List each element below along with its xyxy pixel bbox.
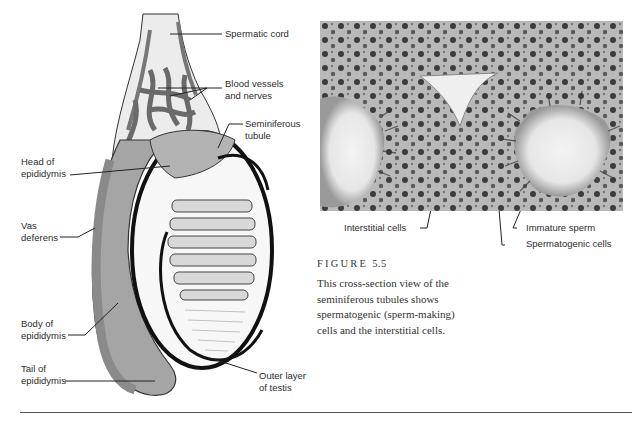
label-seminiferous-line2: tubule bbox=[245, 130, 271, 142]
label-seminiferous-line1: Seminiferous bbox=[245, 118, 300, 130]
figure-caption: This cross-section view of the seminifer… bbox=[317, 276, 457, 338]
figure-number: 5.5 bbox=[372, 258, 387, 269]
label-outer-line2: of testis bbox=[259, 382, 292, 394]
figure-label: FIGURE bbox=[317, 258, 368, 269]
label-immature-sperm: Immature sperm bbox=[526, 222, 595, 234]
label-vas-line2: deferens bbox=[21, 232, 58, 244]
bottom-rule bbox=[20, 412, 632, 413]
label-head-line2: epididymis bbox=[21, 168, 66, 180]
label-body-line2: epididymis bbox=[21, 330, 66, 342]
label-body-line1: Body of bbox=[21, 318, 53, 330]
micrograph-photo bbox=[320, 21, 623, 211]
label-blood-vessels-line2: and nerves bbox=[225, 90, 272, 102]
label-vas-line1: Vas bbox=[21, 220, 37, 232]
label-tail-line1: Tail of bbox=[21, 363, 46, 375]
label-outer-line1: Outer layer bbox=[259, 370, 306, 382]
label-head-line1: Head of bbox=[21, 156, 54, 168]
label-blood-vessels-line1: Blood vessels bbox=[225, 78, 284, 90]
label-tail-line2: epididymis bbox=[21, 375, 66, 387]
label-spermatic-cord: Spermatic cord bbox=[225, 28, 289, 40]
label-spermatogenic-cells: Spermatogenic cells bbox=[526, 238, 612, 250]
label-interstitial-cells: Interstitial cells bbox=[344, 222, 406, 234]
figure-title: FIGURE5.5 bbox=[317, 258, 387, 269]
